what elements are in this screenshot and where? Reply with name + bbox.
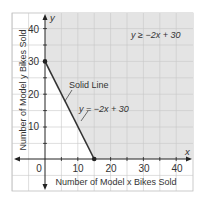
y-tick-10: 10 — [28, 121, 40, 132]
y-tick-20: 20 — [28, 89, 40, 100]
x-tick-20: 20 — [105, 163, 117, 174]
y-intercept-point — [43, 59, 48, 64]
line-equation-label: y = −2x + 30 — [78, 104, 129, 114]
x-tick-30: 30 — [138, 163, 150, 174]
x-axis-title: Number of Model x Bikes Sold — [55, 177, 176, 187]
inequality-label: y ≥ −2x + 30 — [130, 30, 180, 40]
x-tick-40: 40 — [171, 163, 183, 174]
y-axis-title: Number of Model y Bikes Sold — [18, 29, 28, 150]
x-tick-10: 10 — [72, 163, 84, 174]
solid-line-label: Solid Line — [69, 80, 109, 90]
y-tick-40: 40 — [28, 24, 40, 35]
y-tick-30: 30 — [28, 56, 40, 67]
x-intercept-point — [92, 157, 97, 162]
x-tick-0: 0 — [36, 163, 42, 174]
inequality-graph: 40 30 20 10 0 10 20 30 40 y x Number of … — [0, 0, 207, 200]
